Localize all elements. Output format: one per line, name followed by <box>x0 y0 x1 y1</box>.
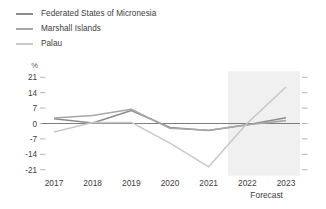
plot-svg: %211470-7-14-21 201720182019202020212022… <box>0 0 326 209</box>
x-tick-label: 2019 <box>122 178 141 188</box>
y-axis-unit-label: % <box>31 61 38 70</box>
y-tick-label: -21 <box>25 166 37 175</box>
y-tick-label: 21 <box>28 73 38 82</box>
y-tick-label: 7 <box>32 104 37 113</box>
plot-area: %211470-7-14-21 201720182019202020212022… <box>0 0 326 209</box>
y-tick-label: -14 <box>25 150 37 159</box>
y-axis-labels: %211470-7-14-21 <box>25 61 38 174</box>
gdp-growth-line-chart: Federated States of Micronesia Marshall … <box>0 0 326 209</box>
x-tick-label: 2022 <box>238 178 257 188</box>
chart-annotations: Forecast <box>250 190 283 200</box>
x-tick-label: 2017 <box>45 178 64 188</box>
x-tick-label: 2023 <box>277 178 296 188</box>
x-tick-label: 2021 <box>199 178 218 188</box>
y-tick-label: 14 <box>28 89 38 98</box>
y-tick-label: 0 <box>32 120 37 129</box>
x-axis-labels: 2017201820192020202120222023 <box>45 178 296 188</box>
x-tick-label: 2020 <box>161 178 180 188</box>
forecast-annotation-label: Forecast <box>250 190 283 200</box>
x-tick-label: 2018 <box>83 178 102 188</box>
y-tick-label: -7 <box>30 135 38 144</box>
